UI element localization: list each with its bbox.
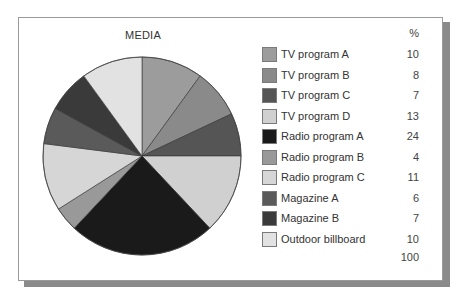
legend-swatch [262, 211, 277, 226]
legend-value: 8 [379, 68, 419, 83]
legend-value: 24 [379, 129, 419, 144]
legend-value: 10 [379, 232, 419, 247]
legend-label: TV program C [281, 88, 350, 103]
legend-item: Radio program A24 [262, 129, 422, 145]
legend-swatch [262, 150, 277, 165]
legend-label: Radio program C [281, 170, 365, 185]
legend-swatch [262, 129, 277, 144]
legend-value: 11 [379, 170, 419, 185]
legend-swatch [262, 88, 277, 103]
legend-label: TV program A [281, 47, 349, 62]
legend-swatch [262, 232, 277, 247]
total-value: 100 [379, 251, 419, 263]
legend-swatch [262, 191, 277, 206]
legend-label: TV program B [281, 68, 349, 83]
chart-card: MEDIA % TV program A10TV program B8TV pr… [18, 17, 443, 281]
legend-item: TV program A10 [262, 47, 422, 63]
legend-item: Outdoor billboard10 [262, 232, 422, 248]
legend-swatch [262, 109, 277, 124]
legend-item: Magazine B7 [262, 211, 422, 227]
legend-item: TV program B8 [262, 68, 422, 84]
legend-swatch [262, 47, 277, 62]
percent-header: % [379, 27, 419, 39]
legend-value: 7 [379, 88, 419, 103]
legend-value: 10 [379, 47, 419, 62]
legend-item: Radio program B4 [262, 150, 422, 166]
legend-swatch [262, 170, 277, 185]
legend-label: Magazine A [281, 191, 338, 206]
legend-swatch [262, 68, 277, 83]
legend-item: Radio program C11 [262, 170, 422, 186]
pie-chart [41, 55, 243, 257]
legend-value: 4 [379, 150, 419, 165]
legend-value: 6 [379, 191, 419, 206]
legend-item: TV program D13 [262, 109, 422, 125]
legend-item: Magazine A6 [262, 191, 422, 207]
legend-label: Radio program B [281, 150, 364, 165]
legend-value: 7 [379, 211, 419, 226]
legend-label: Magazine B [281, 211, 339, 226]
legend-label: TV program D [281, 109, 350, 124]
legend-value: 13 [379, 109, 419, 124]
legend-item: TV program C7 [262, 88, 422, 104]
legend-label: Radio program A [281, 129, 364, 144]
chart-title: MEDIA [19, 29, 267, 41]
legend-label: Outdoor billboard [281, 232, 365, 247]
